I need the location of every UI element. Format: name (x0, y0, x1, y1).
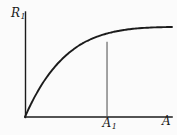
y-axis-label: R1 (11, 7, 26, 19)
plot-svg (0, 0, 177, 135)
figure-container: R1 A A1 (0, 0, 177, 135)
x-axis-label: A (162, 115, 171, 127)
x-axis-marker-label-a1: A1 (103, 117, 117, 129)
x-axis-label-text: A (162, 114, 171, 128)
y-axis-label-subscript: 1 (21, 12, 26, 21)
marker-label-text: A (103, 116, 112, 130)
curve-r1-of-a (25, 27, 172, 117)
y-axis-label-text: R (11, 6, 20, 20)
marker-label-subscript: 1 (112, 122, 117, 131)
